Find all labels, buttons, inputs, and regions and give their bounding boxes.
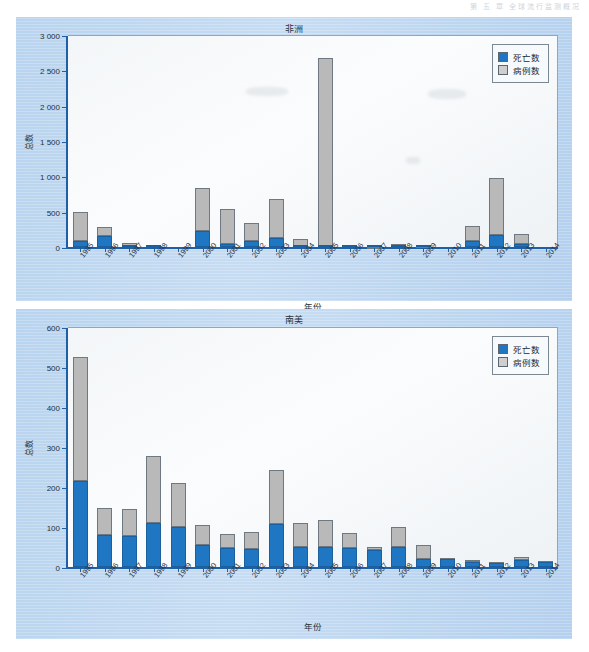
legend-item-deaths: 死亡数 bbox=[498, 343, 540, 355]
bar-segment-cases bbox=[416, 545, 431, 560]
bar-segment-cases bbox=[318, 520, 333, 547]
bar-segment-cases bbox=[220, 209, 235, 244]
y-axis-tick bbox=[62, 142, 66, 143]
y-axis-tick bbox=[62, 213, 66, 214]
bar-group bbox=[269, 199, 284, 247]
y-axis-tick-label: 300 bbox=[47, 444, 60, 453]
bar-segment-cases bbox=[244, 532, 259, 549]
bar-group bbox=[318, 58, 333, 247]
chart-legend: 死亡数病例数 bbox=[492, 44, 549, 83]
bar-segment-deaths bbox=[171, 527, 186, 567]
bar-segment-cases bbox=[122, 509, 137, 536]
y-axis-tick bbox=[62, 71, 66, 72]
bar-segment-cases bbox=[318, 58, 333, 247]
figure-page: 第 五 章 全球流行监测概况 非洲 05001 0001 5002 0002 5… bbox=[0, 0, 589, 652]
y-axis-tick bbox=[62, 177, 66, 178]
bar-segment-cases bbox=[220, 534, 235, 548]
bar-group bbox=[195, 188, 210, 247]
x-axis-tick-label: 2014 bbox=[544, 241, 561, 260]
y-axis-tick-label: 200 bbox=[47, 484, 60, 493]
y-axis-line bbox=[66, 328, 68, 568]
bar-segment-cases bbox=[269, 470, 284, 524]
bar-group bbox=[220, 534, 235, 567]
y-axis-tick-label: 0 bbox=[56, 244, 60, 253]
bar-group bbox=[146, 456, 161, 567]
bar-segment-deaths bbox=[73, 481, 88, 567]
y-axis-tick bbox=[62, 408, 66, 409]
legend-swatch-icon bbox=[498, 65, 508, 75]
paper-smudge bbox=[406, 157, 420, 164]
chart-panel-south-america: 南美 0100200300400500600199519961997199819… bbox=[16, 309, 572, 639]
y-axis-tick bbox=[62, 568, 66, 569]
x-axis-tick-label: 2009 bbox=[421, 241, 438, 260]
y-axis-tick-label: 3 000 bbox=[40, 32, 60, 41]
bar-segment-cases bbox=[146, 456, 161, 523]
bar-segment-cases bbox=[465, 226, 480, 242]
bar-segment-cases bbox=[73, 357, 88, 481]
bar-segment-cases bbox=[195, 525, 210, 545]
paper-smudge bbox=[246, 87, 288, 96]
y-axis-tick bbox=[62, 528, 66, 529]
chart-legend: 死亡数病例数 bbox=[492, 336, 549, 375]
bar-group bbox=[220, 209, 235, 248]
y-axis-tick-label: 2 500 bbox=[40, 67, 60, 76]
chart-title-africa: 非洲 bbox=[16, 22, 572, 35]
legend-swatch-icon bbox=[498, 344, 508, 354]
y-axis-title: 总数 bbox=[23, 134, 34, 150]
x-axis-tick-label: 1999 bbox=[176, 241, 193, 260]
bar-group bbox=[244, 532, 259, 567]
bar-segment-cases bbox=[489, 178, 504, 234]
legend-item-cases: 病例数 bbox=[498, 356, 540, 368]
plot-area-south-america: 0100200300400500600199519961997199819992… bbox=[68, 328, 557, 567]
bar-group bbox=[342, 533, 357, 567]
legend-label: 病例数 bbox=[513, 64, 540, 76]
y-axis-tick-label: 500 bbox=[47, 364, 60, 373]
y-axis-tick bbox=[62, 328, 66, 329]
bar-group bbox=[122, 509, 137, 567]
bar-segment-deaths bbox=[146, 523, 161, 567]
legend-item-cases: 病例数 bbox=[498, 64, 540, 76]
y-axis-tick-label: 1 000 bbox=[40, 173, 60, 182]
bar-group bbox=[293, 523, 308, 567]
y-axis-tick bbox=[62, 107, 66, 108]
bar-segment-cases bbox=[97, 227, 112, 236]
bar-group bbox=[73, 212, 88, 247]
x-axis-title: 年份 bbox=[68, 620, 557, 632]
bar-segment-cases bbox=[244, 223, 259, 241]
legend-label: 死亡数 bbox=[513, 51, 540, 63]
y-axis-tick bbox=[62, 488, 66, 489]
chart-panel-africa: 非洲 05001 0001 5002 0002 5003 00019951996… bbox=[16, 17, 572, 301]
bar-segment-cases bbox=[73, 212, 88, 241]
x-axis-tick-label: 1998 bbox=[152, 241, 169, 260]
y-axis-tick-label: 600 bbox=[47, 324, 60, 333]
plot-frame-south-america: 0100200300400500600199519961997199819992… bbox=[68, 327, 558, 567]
legend-label: 病例数 bbox=[513, 356, 540, 368]
bar-segment-cases bbox=[342, 533, 357, 548]
paper-smudge bbox=[428, 89, 466, 99]
y-axis-tick-label: 400 bbox=[47, 404, 60, 413]
chart-title-south-america: 南美 bbox=[16, 313, 572, 326]
bar-segment-cases bbox=[269, 199, 284, 238]
y-axis-tick-label: 500 bbox=[47, 208, 60, 217]
bar-group bbox=[318, 520, 333, 567]
y-axis-tick-label: 1 500 bbox=[40, 138, 60, 147]
plot-area-africa: 05001 0001 5002 0002 5003 00019951996199… bbox=[68, 36, 557, 247]
bar-group bbox=[73, 357, 88, 567]
bar-segment-deaths bbox=[269, 524, 284, 567]
legend-item-deaths: 死亡数 bbox=[498, 51, 540, 63]
legend-swatch-icon bbox=[498, 357, 508, 367]
bar-segment-cases bbox=[171, 483, 186, 527]
y-axis-title: 总数 bbox=[23, 440, 34, 456]
bar-segment-cases bbox=[391, 527, 406, 548]
running-head: 第 五 章 全球流行监测概况 bbox=[470, 1, 581, 11]
bar-group bbox=[489, 178, 504, 247]
bar-group bbox=[97, 508, 112, 567]
bar-segment-cases bbox=[195, 188, 210, 231]
bar-group bbox=[391, 527, 406, 567]
bar-group bbox=[269, 470, 284, 567]
x-axis-tick-label: 2007 bbox=[372, 241, 389, 260]
y-axis-tick bbox=[62, 248, 66, 249]
y-axis-tick-label: 100 bbox=[47, 524, 60, 533]
bar-group bbox=[195, 525, 210, 567]
y-axis-tick-label: 0 bbox=[56, 564, 60, 573]
